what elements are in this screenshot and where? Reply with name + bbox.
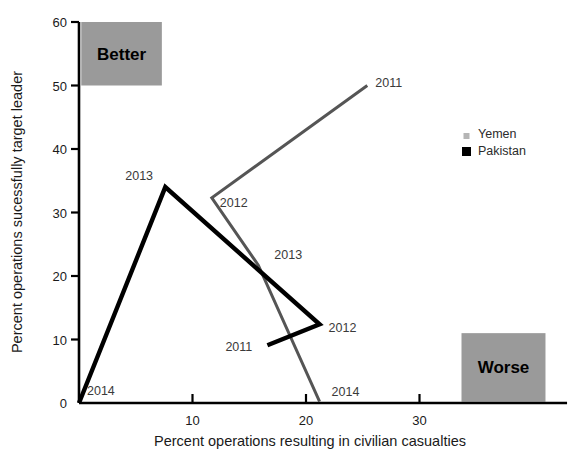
data-series-layer (79, 86, 367, 404)
y-tick-label: 10 (53, 333, 67, 348)
legend-label-pakistan: Pakistan (478, 144, 526, 158)
x-tick-label: 30 (412, 413, 426, 428)
point-label-yemen-2013: 2013 (274, 248, 302, 262)
zone-rectangles-layer: BetterWorse (81, 22, 545, 402)
chart-figure: BetterWorse 2011201220132014201120122013… (0, 0, 569, 458)
legend-item-yemen[interactable]: Yemen (464, 127, 517, 141)
y-tick-label: 30 (53, 206, 67, 221)
better-zone: Better (81, 22, 162, 86)
y-tick-label: 60 (53, 15, 67, 30)
series-line-pakistan (79, 187, 320, 403)
point-label-pakistan-2013: 2013 (125, 169, 153, 183)
x-tick-label: 20 (299, 413, 313, 428)
y-tick-label: 20 (53, 269, 67, 284)
point-labels-layer: 20112012201320142011201220132014 (87, 76, 402, 399)
x-axis-title: Percent operations resulting in civilian… (154, 433, 466, 449)
point-label-pakistan-2014: 2014 (87, 384, 115, 398)
legend-swatch-pakistan (462, 147, 471, 156)
worse-zone: Worse (461, 333, 545, 402)
legend: YemenPakistan (462, 127, 526, 158)
y-tick-label: 50 (53, 79, 67, 94)
worse-zone-label: Worse (478, 358, 530, 377)
x-tick-label: 10 (185, 413, 199, 428)
series-line-yemen (212, 86, 367, 402)
point-label-pakistan-2011: 2011 (225, 340, 252, 354)
legend-label-yemen: Yemen (478, 127, 517, 141)
point-label-yemen-2011: 2011 (375, 76, 402, 90)
point-label-yemen-2014: 2014 (332, 385, 360, 399)
better-zone-label: Better (97, 45, 147, 64)
y-tick-label: 40 (53, 142, 67, 157)
legend-item-pakistan[interactable]: Pakistan (462, 144, 526, 158)
y-tick-label: 0 (60, 396, 67, 411)
chart-canvas: BetterWorse 2011201220132014201120122013… (0, 0, 569, 458)
point-label-yemen-2012: 2012 (220, 196, 248, 210)
point-label-pakistan-2012: 2012 (329, 321, 357, 335)
legend-swatch-yemen (464, 133, 470, 139)
y-axis-title: Percent operations sucessfully target le… (9, 71, 25, 353)
